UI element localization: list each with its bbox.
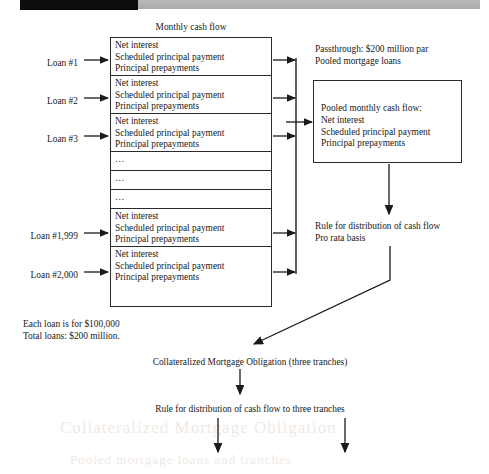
loan-input-arrows xyxy=(84,60,108,272)
arrow-distribution-to-cmo xyxy=(254,246,390,344)
figure-canvas: Collateralized Mortgage Obligation Poole… xyxy=(0,0,489,474)
arrow-layer xyxy=(0,0,489,474)
loan-output-arrows xyxy=(273,60,295,272)
